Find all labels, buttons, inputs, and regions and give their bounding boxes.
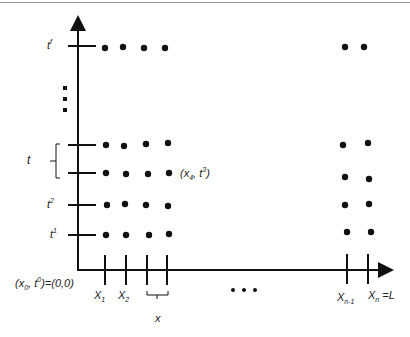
x-label-X2: X2 <box>118 290 129 303</box>
t-step-label: t <box>27 154 30 166</box>
grid-points <box>102 44 374 238</box>
x-label-Xn: Xn =L <box>368 290 395 303</box>
horizontal-ellipsis <box>231 288 257 292</box>
t-step-brace <box>50 144 60 178</box>
t-label-t2: t2 <box>47 197 54 210</box>
x-label-Xn-1: Xn-1 <box>337 292 354 305</box>
x-label-X1: X1 <box>94 290 105 303</box>
t-label-tf: tf <box>47 38 52 51</box>
x-step-brace <box>147 291 168 299</box>
x-step-label: x <box>155 313 161 324</box>
origin-label: (x0, t0)=(0,0) <box>15 276 74 291</box>
t-label-t1: t1 <box>50 227 57 240</box>
vertical-ellipsis <box>63 86 67 112</box>
point-annotation-x4-t3: (x4, t3) <box>180 166 210 181</box>
t-ticks <box>68 46 96 235</box>
